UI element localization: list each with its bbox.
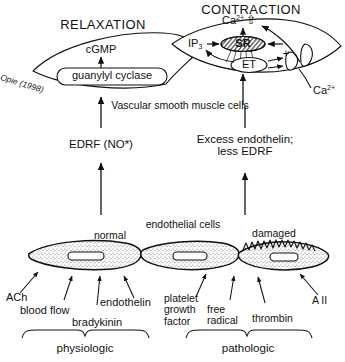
calcium-up-arrow-icon: ⇧ [246,13,256,27]
excess-endothelin-line2: less EDRF [218,145,273,157]
excess-endothelin-label: Excess endothelin; less EDRF [197,133,294,158]
stimulus-ach-label: ACh [6,292,27,304]
normal-cell-label: normal [94,230,126,241]
excess-endothelin-line1: Excess endothelin; [197,133,294,145]
calcium-increase-text: Ca [222,14,236,26]
brace-physiologic [22,330,149,338]
brace-label-pathologic: pathologic [222,342,274,354]
stimulus-bradykinin-label: bradykinin [72,317,122,329]
endothelial-cell-middle [141,241,239,269]
extracellular-calcium-charge: 2+ [327,84,335,91]
pgf-line1: platelet [164,292,198,304]
extracellular-calcium-label: Ca2+ [313,84,335,97]
free-radical-line2: radical [207,314,238,326]
stimulus-free-radical-label: free radical [207,304,238,327]
sr-label: SR [235,38,250,50]
plus-sign-label: + [283,48,289,60]
endothelial-cell-normal-left [29,241,142,270]
stimulus-endothelin-label: endothelin [100,297,151,309]
calcium-increase-label: Ca2+⇧ [222,14,256,27]
edrf-label: EDRF (NO*) [69,138,133,150]
endothelial-cell-damaged [238,240,328,270]
endothelium-vascular-signaling-diagram: Opie (1998) RELAXATION CONTRACTION cGMP … [0,0,345,362]
free-radical-line1: free [207,303,225,315]
cgmp-label: cGMP [86,44,117,56]
relaxation-heading: RELAXATION [60,18,145,32]
vascular-smooth-muscle-label: Vascular smooth muscle cells [111,100,249,111]
brace-pathologic [186,330,312,338]
ip3-text: IP [188,37,198,49]
calcium-increase-charge: 2+ [236,14,244,21]
brace-label-physiologic: physiologic [57,342,114,354]
extracellular-calcium-text: Ca [313,84,327,96]
stimulus-blood-flow-label: blood flow [20,305,70,317]
endothelial-cells-layer-label: endothelial cells [146,219,221,230]
stimulus-platelet-growth-factor-label: platelet growth factor [164,293,198,327]
damaged-cell-label: damaged [252,228,296,239]
ip3-subscript: 3 [198,43,202,50]
et-label: ET [242,59,256,71]
pgf-line2: growth [164,303,196,315]
ip3-label: IP3 [188,38,202,51]
pgf-line3: factor [164,315,190,327]
extracellular-calcium-connector [299,69,311,88]
stimulus-thrombin-label: thrombin [252,313,293,324]
guanylyl-cyclase-label: guanylyl cyclase [72,70,152,82]
stimulus-angiotensin-label: A II [312,295,327,306]
